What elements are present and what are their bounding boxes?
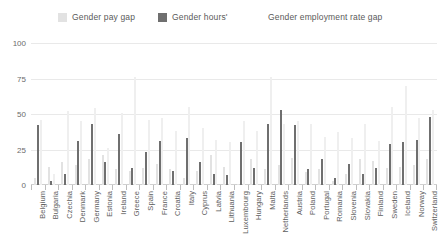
bar-group (423, 43, 437, 185)
bar (129, 171, 131, 185)
bar (88, 159, 90, 185)
legend-item-gender-employment-rate-gap[interactable]: Gender employment rate gap (268, 12, 382, 22)
bar (253, 168, 255, 185)
bar (386, 168, 388, 185)
bar-group (396, 43, 410, 185)
x-axis-tickmark (302, 185, 316, 190)
x-axis-tickmark (139, 185, 153, 190)
bar (359, 159, 361, 185)
bar (223, 167, 225, 185)
x-axis-label-cell: Belgium (31, 191, 45, 249)
x-axis-tickmark (396, 185, 410, 190)
bar-group (410, 43, 424, 185)
x-axis-tickmark (342, 185, 356, 190)
bar (102, 155, 104, 185)
x-axis-tickmark (85, 185, 99, 190)
bar-group (234, 43, 248, 185)
bar (215, 140, 217, 185)
x-axis-label-cell: Switzerland (423, 191, 437, 249)
x-axis-tickmark (248, 185, 262, 190)
bar (199, 162, 201, 185)
x-axis-tickmark (234, 185, 248, 190)
x-axis-label-cell: Cyprus (193, 191, 207, 249)
x-axis-tickmark (193, 185, 207, 190)
bar (310, 124, 312, 185)
bar-group (180, 43, 194, 185)
x-axis-tickmark (112, 185, 126, 190)
x-axis-label-cell: Luxembourg (234, 191, 248, 249)
plot-area: 1007550250 (31, 43, 437, 185)
bar (389, 144, 391, 185)
bar (278, 165, 280, 185)
x-axis-tickmark (126, 185, 140, 190)
bar (294, 125, 296, 185)
bar (172, 171, 174, 185)
bar (334, 178, 336, 185)
x-axis-label-cell: Greece (126, 191, 140, 249)
bar-group (288, 43, 302, 185)
bar (156, 164, 158, 185)
bar (256, 131, 258, 185)
gender-gap-chart: Gender pay gap Gender hours' Gender empl… (0, 0, 441, 251)
x-axis-label-cell: Lithuania (220, 191, 234, 249)
x-axis-label-cell: Bulgaria (45, 191, 59, 249)
bar (321, 159, 323, 185)
bar-group (369, 43, 383, 185)
x-axis-tickmark (180, 185, 194, 190)
bar-group (126, 43, 140, 185)
x-axis-label: Switzerland (430, 191, 439, 231)
x-axis-tickmark (72, 185, 86, 190)
x-axis-label-cell: Sweden (383, 191, 397, 249)
bar (148, 120, 150, 185)
x-axis-label-cell: France (153, 191, 167, 249)
x-axis-label-cell: Finland (369, 191, 383, 249)
bar (305, 172, 307, 185)
bar-group (342, 43, 356, 185)
bar (48, 167, 50, 185)
bar (270, 77, 272, 185)
x-axis-tickmark (261, 185, 275, 190)
bar (362, 174, 364, 185)
legend-item-gender-hours[interactable]: Gender hours' (158, 12, 228, 22)
bar (405, 86, 407, 185)
x-axis-tickmark (410, 185, 424, 190)
bar (416, 140, 418, 185)
bar (226, 175, 228, 185)
bar (104, 162, 106, 185)
bar-group (193, 43, 207, 185)
legend-label-gender-hours: Gender hours' (172, 12, 228, 22)
x-axis-label-cell: Estonia (99, 191, 113, 249)
chart-legend: Gender pay gap Gender hours' Gender empl… (0, 12, 441, 32)
x-axis-label-cell: Czechia (58, 191, 72, 249)
bar (264, 169, 266, 185)
x-axis-label-cell: Portugal (315, 191, 329, 249)
bar (67, 111, 69, 185)
x-axis-label-cell: Malta (261, 191, 275, 249)
bar (213, 174, 215, 185)
legend-swatch-gender-pay-gap (58, 13, 67, 22)
legend-item-gender-pay-gap[interactable]: Gender pay gap (58, 12, 135, 22)
bar (318, 169, 320, 185)
bar-group (383, 43, 397, 185)
bar (364, 124, 366, 185)
legend-label-gender-employment-rate-gap: Gender employment rate gap (268, 12, 382, 22)
bar (159, 141, 161, 185)
x-axis-tickmark (45, 185, 59, 190)
bar (183, 178, 185, 185)
legend-swatch-gender-hours (158, 13, 167, 22)
bar (375, 168, 377, 185)
x-axis-label-cell: Denmark (72, 191, 86, 249)
bar-group (85, 43, 99, 185)
x-axis-label-cell: Hungary (248, 191, 262, 249)
x-axis-tickmark (31, 185, 45, 190)
bar (267, 124, 269, 185)
bar (418, 118, 420, 185)
bar (250, 159, 252, 185)
bar (77, 141, 79, 185)
bar-group (139, 43, 153, 185)
bar (91, 124, 93, 185)
bar-group (248, 43, 262, 185)
x-axis-tickmarks (31, 185, 437, 190)
x-axis-tickmark (58, 185, 72, 190)
x-axis-label-cell: Slovenia (342, 191, 356, 249)
